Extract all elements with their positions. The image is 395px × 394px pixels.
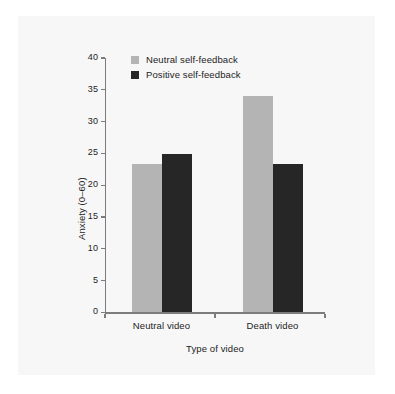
y-axis-title: Anxiety (0–60) xyxy=(76,177,87,240)
legend-label-positive: Positive self-feedback xyxy=(146,69,241,80)
bars-layer xyxy=(0,0,395,312)
legend-item-neutral: Neutral self-feedback xyxy=(131,52,241,67)
bar-death-video-neutral-self-feedback xyxy=(243,96,273,313)
chart-legend: Neutral self-feedback Positive self-feed… xyxy=(131,52,241,82)
bar-chart-plot-area: 0510152025303540 Neutral videoDeath vide… xyxy=(0,0,395,394)
bar-neutral-video-neutral-self-feedback xyxy=(132,164,162,312)
figure: 0510152025303540 Neutral videoDeath vide… xyxy=(0,0,395,394)
x-tick-1 xyxy=(214,314,215,318)
bar-neutral-video-positive-self-feedback xyxy=(162,154,192,312)
legend-item-positive: Positive self-feedback xyxy=(131,67,241,82)
legend-swatch-neutral xyxy=(131,56,139,64)
legend-swatch-positive xyxy=(131,71,139,79)
x-category-label-1: Death video xyxy=(213,320,333,331)
bar-death-video-positive-self-feedback xyxy=(273,164,303,312)
x-axis-title: Type of video xyxy=(105,343,325,354)
x-category-label-0: Neutral video xyxy=(102,320,222,331)
x-tick-2 xyxy=(324,314,325,318)
x-tick-0 xyxy=(104,314,105,318)
legend-label-neutral: Neutral self-feedback xyxy=(146,54,238,65)
